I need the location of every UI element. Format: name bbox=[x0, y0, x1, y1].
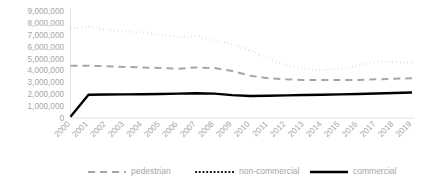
x-axis-tick-label: 2002 bbox=[89, 119, 109, 139]
x-axis-tick-label: 2005 bbox=[143, 119, 163, 139]
y-axis-tick-label: 1,000,000 bbox=[28, 102, 65, 111]
x-axis-tick-label: 2012 bbox=[268, 119, 288, 139]
x-axis-tick-label: 2011 bbox=[251, 119, 270, 138]
x-axis-tick-labels: 2000200120022003200420052006200720082009… bbox=[53, 119, 414, 139]
x-axis-tick-label: 2000 bbox=[53, 119, 73, 139]
x-axis-tick-label: 2019 bbox=[394, 119, 414, 139]
x-axis-tick-label: 2016 bbox=[340, 119, 360, 139]
y-axis-tick-label: 5,000,000 bbox=[28, 55, 65, 64]
x-axis-tick-label: 2006 bbox=[161, 119, 181, 139]
y-axis-tick-label: 3,000,000 bbox=[28, 78, 65, 87]
x-axis-tick-label: 2010 bbox=[232, 119, 252, 139]
x-axis-tick-label: 2003 bbox=[107, 119, 127, 139]
y-axis-tick-label: 9,000,000 bbox=[28, 7, 65, 16]
x-axis-tick-label: 2015 bbox=[322, 119, 342, 139]
legend: pedestriannon-commercialcommercial bbox=[88, 166, 397, 176]
x-axis-tick-label: 2007 bbox=[178, 119, 198, 139]
series-line-pedestrian bbox=[71, 66, 413, 80]
x-axis-tick-label: 2001 bbox=[71, 119, 91, 139]
y-axis-tick-label: 6,000,000 bbox=[28, 43, 65, 52]
legend-label-non-commercial: non-commercial bbox=[239, 166, 300, 176]
x-axis-tick-label: 2017 bbox=[358, 119, 378, 139]
x-axis-tick-label: 2014 bbox=[304, 119, 324, 139]
x-axis-tick-label: 2009 bbox=[214, 119, 234, 139]
legend-label-commercial: commercial bbox=[353, 166, 397, 176]
line-chart: 01,000,0002,000,0003,000,0004,000,0005,0… bbox=[0, 0, 433, 184]
chart-canvas: 01,000,0002,000,0003,000,0004,000,0005,0… bbox=[0, 0, 433, 184]
x-axis-tick-label: 2013 bbox=[286, 119, 306, 139]
y-axis-tick-label: 2,000,000 bbox=[28, 90, 65, 99]
series-line-commercial bbox=[71, 92, 413, 116]
y-axis-tick-labels: 01,000,0002,000,0003,000,0004,000,0005,0… bbox=[28, 7, 65, 123]
y-axis-tick-label: 8,000,000 bbox=[28, 19, 65, 28]
x-axis-tick-label: 2018 bbox=[376, 119, 396, 139]
legend-label-pedestrian: pedestrian bbox=[131, 166, 171, 176]
series-line-non-commercial bbox=[71, 26, 413, 70]
x-axis-tick-label: 2004 bbox=[125, 119, 145, 139]
series-group bbox=[71, 26, 413, 116]
y-axis-tick-label: 4,000,000 bbox=[28, 66, 65, 75]
x-axis-tick-label: 2008 bbox=[196, 119, 216, 139]
y-axis-tick-label: 7,000,000 bbox=[28, 31, 65, 40]
axis-lines bbox=[71, 8, 415, 118]
